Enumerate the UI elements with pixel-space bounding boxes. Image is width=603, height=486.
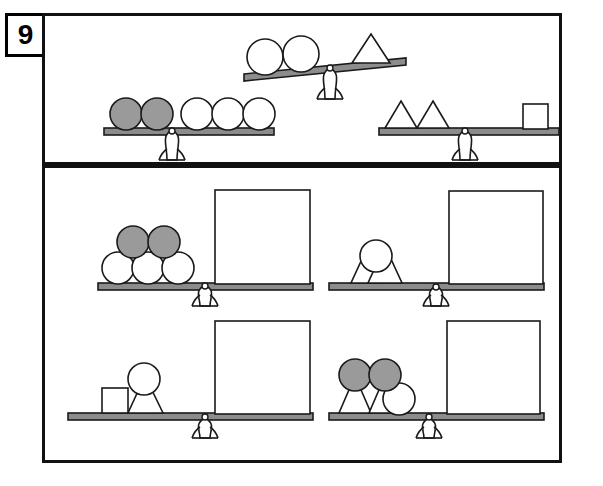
option-a-scale[interactable]: 2 gray circles stacked on 3 white circle… [60,183,320,308]
white-triangle [385,101,417,128]
option-a-graphic[interactable] [60,183,320,308]
gray-circle [369,359,401,391]
white-circle [283,36,319,72]
puzzle-canvas: 9 [0,0,603,486]
white-circle [360,240,392,272]
premise-2-scale: 2 gray circles [100,86,300,166]
premise-3-graphic [375,86,575,166]
option-c-graphic[interactable] [60,318,320,443]
puzzle-number-badge: 9 [5,13,46,57]
white-square [102,388,128,413]
white-circle [128,363,160,395]
big-empty-box [449,191,543,284]
puzzle-number: 9 [18,21,34,49]
white-circle [243,98,275,130]
option-d-graphic[interactable] [323,318,573,443]
big-empty-box [447,321,540,414]
option-b-scale[interactable]: 2 triangles with 1 white circle [323,188,563,308]
option-b-graphic[interactable] [323,188,563,308]
option-d-scale[interactable]: 2 triangles topped by 2 gray circles plu… [323,318,573,443]
option-c-scale[interactable]: 1 small square, 1 triangle, 1 white circ… [60,318,320,443]
gray-circle [339,359,371,391]
premise-2-graphic [100,86,300,166]
white-circle [181,98,213,130]
premise-3-scale: 2 triangles [375,86,575,166]
white-triangle [417,101,449,128]
gray-circle [141,98,173,130]
white-circle [247,39,283,75]
white-circle [212,98,244,130]
pivot-hole [202,414,208,420]
gray-circle [117,226,149,258]
pivot-hole [433,284,439,290]
white-triangle [352,34,390,63]
pivot-hole [426,414,432,420]
pivot-hole [327,65,333,71]
big-empty-box [215,321,310,414]
premises-panel: 2 white circles [42,13,562,165]
pivot-hole [169,128,175,134]
gray-circle [148,226,180,258]
options-panel: 2 gray circles stacked on 3 white circle… [42,165,562,463]
gray-circle [110,98,142,130]
pivot-hole [202,283,208,289]
big-empty-box [215,190,310,284]
pivot-hole [462,128,468,134]
white-square [523,104,548,129]
